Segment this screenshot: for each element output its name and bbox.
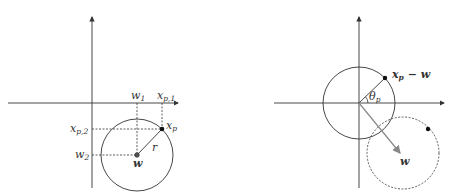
label-r: r bbox=[152, 141, 158, 154]
label-xp1: xp,1 bbox=[157, 89, 175, 103]
point-xp-shifted bbox=[426, 127, 430, 131]
diagram-canvas: w1 xp,1 xp,2 w2 xp r w xp − w θp w bbox=[0, 0, 451, 196]
point-xp bbox=[160, 127, 165, 132]
label-w1: w1 bbox=[131, 89, 145, 103]
right-panel: xp − w θp w bbox=[274, 17, 444, 189]
label-xp-minus-w: xp − w bbox=[391, 68, 431, 82]
label-xp2: xp,2 bbox=[70, 122, 88, 136]
label-w2: w2 bbox=[75, 148, 89, 162]
label-w-vector: w bbox=[400, 155, 410, 168]
radius-line bbox=[137, 129, 162, 155]
angle-arc-theta bbox=[366, 97, 369, 103]
label-w: w bbox=[133, 157, 143, 170]
label-xp: xp bbox=[166, 119, 177, 133]
point-xp-minus-w bbox=[383, 76, 387, 80]
label-theta-p: θp bbox=[369, 90, 381, 104]
left-panel: w1 xp,1 xp,2 w2 xp r w bbox=[8, 17, 178, 191]
